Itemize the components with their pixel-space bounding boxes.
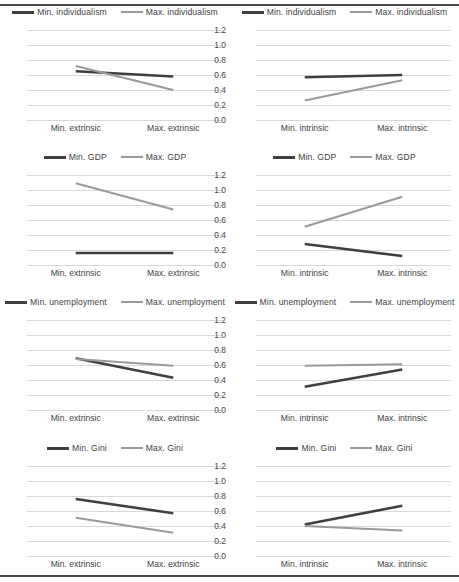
y-axis-labels-gdp-intrinsic: 0.00.20.40.60.81.01.2 — [204, 175, 228, 265]
legend-item[interactable]: Min. GDP — [44, 153, 107, 162]
legend-label: Max. Gini — [146, 444, 183, 453]
y-tick-label: 0.8 — [214, 201, 226, 209]
x-axis-labels-gini-extrinsic: Min. extrinsicMax. extrinsic — [27, 560, 222, 569]
x-tick-label: Min. intrinsic — [256, 414, 354, 423]
legend-swatch-icon — [47, 447, 69, 450]
legend-label: Min. Gini — [72, 444, 107, 453]
x-tick-label: Min. extrinsic — [27, 124, 125, 133]
y-tick-label: 0.8 — [214, 492, 226, 500]
legend-item[interactable]: Min. individualism — [12, 8, 107, 17]
y-tick-label: 1.0 — [214, 186, 226, 194]
legend-swatch-icon — [44, 156, 66, 159]
x-tick-label: Max. intrinsic — [354, 560, 452, 569]
legend-item[interactable]: Max. GDP — [350, 153, 415, 162]
x-tick-label: Max. extrinsic — [125, 269, 223, 278]
legend-item[interactable]: Max. individualism — [350, 8, 447, 17]
legend-swatch-icon — [121, 156, 143, 158]
legend-swatch-icon — [5, 301, 27, 304]
legend-label: Max. Gini — [375, 444, 412, 453]
legend-swatch-icon — [235, 301, 257, 304]
legend-item[interactable]: Min. unemployment — [5, 298, 107, 307]
plot-area-unemployment-intrinsic — [256, 320, 451, 410]
x-tick-label: Min. extrinsic — [27, 560, 125, 569]
gridline — [256, 265, 451, 266]
y-tick-label: 0.6 — [214, 361, 226, 369]
legend-label: Min. unemployment — [260, 298, 337, 307]
y-tick-label: 0.4 — [214, 376, 226, 384]
series-lines — [27, 466, 222, 556]
legend-item[interactable]: Max. unemployment — [350, 298, 454, 307]
gridline — [27, 410, 222, 411]
legend-individualism-extrinsic: Min. individualismMax. individualism — [0, 8, 230, 17]
legend-gini-intrinsic: Min. GiniMax. Gini — [230, 444, 459, 453]
legend-item[interactable]: Max. GDP — [121, 153, 186, 162]
y-tick-label: 0.4 — [214, 522, 226, 530]
series-line — [76, 71, 174, 76]
x-axis-labels-unemployment-intrinsic: Min. intrinsicMax. intrinsic — [256, 414, 451, 423]
series-lines — [256, 175, 451, 265]
legend-swatch-icon — [121, 447, 143, 449]
y-tick-label: 0.6 — [214, 216, 226, 224]
legend-label: Max. unemployment — [375, 298, 454, 307]
y-tick-label: 1.0 — [214, 331, 226, 339]
series-lines — [27, 30, 222, 120]
series-line — [76, 499, 174, 513]
chart-panel-gdp-extrinsic: Min. GDPMax. GDP0.00.20.40.60.81.01.2Min… — [0, 151, 230, 296]
legend-label: Max. GDP — [146, 153, 186, 162]
y-axis-labels-individualism-intrinsic: 0.00.20.40.60.81.01.2 — [204, 30, 228, 120]
legend-gdp-extrinsic: Min. GDPMax. GDP — [0, 153, 230, 162]
y-tick-label: 0.2 — [214, 537, 226, 545]
legend-label: Min. Gini — [301, 444, 336, 453]
series-line — [76, 518, 174, 533]
series-line — [305, 526, 403, 531]
y-axis-labels-gini-intrinsic: 0.00.20.40.60.81.01.2 — [204, 466, 228, 556]
y-tick-label: 0.0 — [214, 116, 226, 124]
x-axis-labels-gdp-intrinsic: Min. intrinsicMax. intrinsic — [256, 269, 451, 278]
legend-item[interactable]: Max. Gini — [350, 444, 412, 453]
legend-item[interactable]: Min. individualism — [242, 8, 337, 17]
legend-label: Min. GDP — [298, 153, 336, 162]
y-tick-label: 0.4 — [214, 231, 226, 239]
x-axis-labels-individualism-intrinsic: Min. intrinsicMax. intrinsic — [256, 124, 451, 133]
legend-gdp-intrinsic: Min. GDPMax. GDP — [230, 153, 459, 162]
series-lines — [27, 320, 222, 410]
y-tick-label: 1.2 — [214, 462, 226, 470]
x-tick-label: Min. intrinsic — [256, 560, 354, 569]
x-tick-label: Max. intrinsic — [354, 124, 452, 133]
series-line — [305, 370, 403, 387]
legend-item[interactable]: Min. unemployment — [235, 298, 337, 307]
series-line — [305, 364, 403, 366]
plot-area-gdp-intrinsic — [256, 175, 451, 265]
series-line — [76, 358, 174, 378]
series-line — [76, 183, 174, 209]
gridline — [27, 556, 222, 557]
legend-swatch-icon — [273, 156, 295, 159]
legend-swatch-icon — [121, 11, 143, 13]
legend-label: Min. GDP — [69, 153, 107, 162]
legend-item[interactable]: Min. GDP — [273, 153, 336, 162]
legend-label: Max. individualism — [375, 8, 447, 17]
x-tick-label: Max. intrinsic — [354, 269, 452, 278]
y-tick-label: 0.2 — [214, 246, 226, 254]
legend-item[interactable]: Min. Gini — [47, 444, 107, 453]
y-tick-label: 0.2 — [214, 391, 226, 399]
x-tick-label: Max. intrinsic — [354, 414, 452, 423]
legend-swatch-icon — [242, 11, 264, 14]
gridline — [27, 120, 222, 121]
chart-grid: Min. individualismMax. individualism0.00… — [0, 6, 459, 576]
legend-item[interactable]: Min. Gini — [276, 444, 336, 453]
plot-area-individualism-intrinsic — [256, 30, 451, 120]
y-tick-label: 1.0 — [214, 477, 226, 485]
plot-area-gdp-extrinsic — [27, 175, 222, 265]
gridline — [256, 556, 451, 557]
x-axis-labels-individualism-extrinsic: Min. extrinsicMax. extrinsic — [27, 124, 222, 133]
legend-item[interactable]: Max. Gini — [121, 444, 183, 453]
legend-item[interactable]: Max. unemployment — [121, 298, 225, 307]
legend-swatch-icon — [12, 11, 34, 14]
legend-label: Min. individualism — [37, 8, 107, 17]
legend-item[interactable]: Max. individualism — [121, 8, 218, 17]
y-tick-label: 1.2 — [214, 316, 226, 324]
y-tick-label: 0.2 — [214, 101, 226, 109]
legend-unemployment-extrinsic: Min. unemploymentMax. unemployment — [0, 298, 230, 307]
x-axis-labels-gini-intrinsic: Min. intrinsicMax. intrinsic — [256, 560, 451, 569]
